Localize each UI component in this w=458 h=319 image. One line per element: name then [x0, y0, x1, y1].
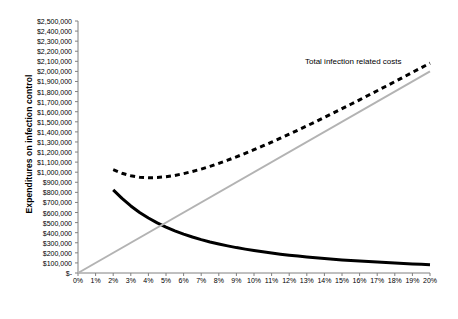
- series-line: [113, 63, 430, 178]
- series-line: [113, 190, 430, 265]
- series-annotation-total-costs: Total infection related costs: [305, 57, 402, 66]
- series-line: [78, 71, 430, 273]
- data-series-group: [78, 63, 430, 273]
- chart-container: Expenditures on infection control $-$100…: [0, 0, 458, 319]
- plot-area: [0, 0, 458, 319]
- x-axis-ticks: [78, 273, 430, 276]
